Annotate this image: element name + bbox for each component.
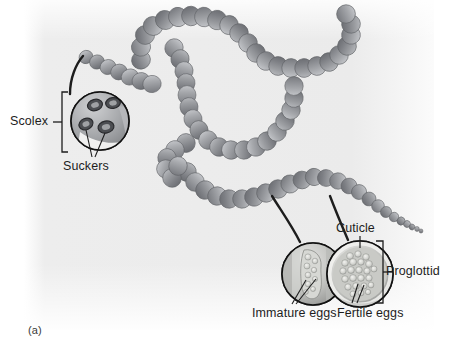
label-immature-eggs: Immature eggs [252, 307, 337, 320]
figure-panel-letter: (a) [28, 325, 42, 336]
tapeworm-figure: Scolex Suckers Cuticle Proglottid Immatu… [0, 0, 461, 351]
label-scolex: Scolex [10, 115, 48, 128]
tapeworm-illustration [0, 0, 461, 351]
label-proglottid: Proglottid [386, 265, 440, 278]
label-cuticle: Cuticle [336, 222, 375, 235]
figure-background [0, 0, 461, 351]
label-suckers: Suckers [63, 160, 109, 173]
label-fertile-eggs: Fertile eggs [337, 307, 404, 320]
